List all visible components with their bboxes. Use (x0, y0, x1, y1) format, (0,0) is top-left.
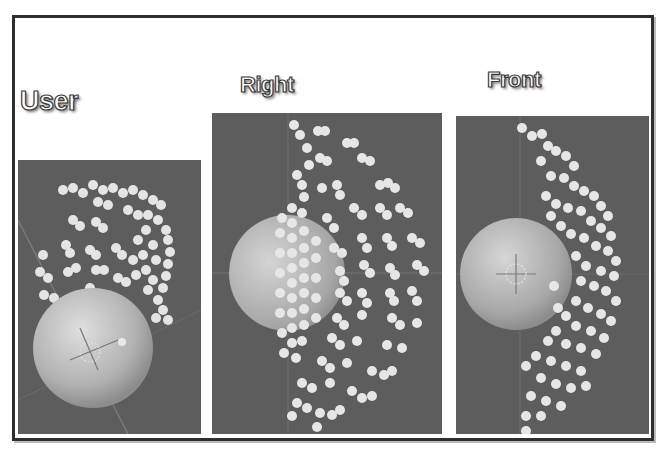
perspective-scene (18, 160, 201, 434)
right-ortho-scene (212, 113, 442, 434)
title-line: Front (487, 69, 620, 91)
viewport-user-perspective (18, 160, 201, 434)
viewport-front-orthographic (456, 116, 649, 434)
front-ortho-scene (456, 116, 649, 434)
sphere (33, 288, 153, 408)
title-line: User (20, 88, 166, 115)
sphere (229, 215, 345, 331)
viewport-right-orthographic (212, 113, 442, 434)
title-line: Right (240, 74, 373, 96)
